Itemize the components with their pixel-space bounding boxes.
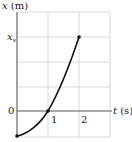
- x-tick-1: 1: [51, 114, 57, 125]
- x-axis-label: t (s): [113, 105, 132, 116]
- origin-crossing-point: [46, 109, 50, 113]
- start-point: [15, 134, 19, 138]
- xs-point: [77, 35, 81, 39]
- y-tick-xs: xs: [7, 31, 16, 43]
- grid: [17, 12, 110, 137]
- y-tick-zero: 0: [8, 105, 14, 116]
- x-tick-2: 2: [81, 114, 87, 125]
- position-time-chart: x (m) xs 0 1 2 t (s): [0, 0, 132, 142]
- y-axis-label: x (m): [2, 0, 28, 11]
